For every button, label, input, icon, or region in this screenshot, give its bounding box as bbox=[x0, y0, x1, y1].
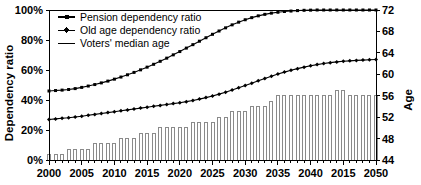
series-marker-diamond bbox=[99, 112, 103, 116]
x-tick-label: 2035 bbox=[266, 167, 290, 179]
series-marker-square bbox=[54, 89, 57, 92]
series-marker-square bbox=[257, 14, 260, 17]
bar-voters-median-age bbox=[67, 149, 70, 160]
bar-voters-median-age bbox=[244, 112, 247, 160]
series-marker-square bbox=[375, 9, 378, 12]
series-marker-diamond bbox=[250, 81, 254, 85]
bar-voters-median-age bbox=[355, 96, 358, 160]
series-marker-diamond bbox=[80, 114, 84, 118]
bar-voters-median-age bbox=[119, 139, 122, 160]
series-marker-square bbox=[67, 88, 70, 91]
series-marker-diamond bbox=[132, 107, 136, 111]
bar-voters-median-age bbox=[133, 139, 136, 160]
bar-voters-median-age bbox=[276, 96, 279, 160]
series-marker-diamond bbox=[237, 86, 241, 90]
series-marker-diamond bbox=[348, 59, 352, 63]
bar-voters-median-age bbox=[224, 117, 227, 160]
y2-tick-label: 60 bbox=[382, 68, 394, 80]
series-marker-square bbox=[93, 83, 96, 86]
y2-tick-label: 64 bbox=[382, 47, 395, 59]
series-marker-square bbox=[250, 16, 253, 19]
series-marker-diamond bbox=[354, 58, 358, 62]
series-marker-square bbox=[276, 11, 279, 14]
bar-voters-median-age bbox=[74, 149, 77, 160]
series-marker-diamond bbox=[276, 72, 280, 76]
series-marker-square bbox=[329, 9, 332, 12]
bar-voters-median-age bbox=[152, 133, 155, 160]
series-marker-square bbox=[303, 9, 306, 12]
bar-voters-median-age bbox=[250, 106, 253, 160]
series-marker-square bbox=[204, 36, 207, 39]
series-marker-square bbox=[296, 9, 299, 12]
series-marker-square bbox=[126, 73, 129, 76]
series-marker-square bbox=[270, 12, 273, 15]
bar-voters-median-age bbox=[172, 128, 175, 160]
bar-voters-median-age bbox=[204, 123, 207, 161]
series-marker-square bbox=[139, 68, 142, 71]
y-tick-label: 0% bbox=[27, 154, 43, 166]
series-marker-square bbox=[237, 21, 240, 24]
series-marker-diamond bbox=[171, 102, 175, 106]
bar-voters-median-age bbox=[270, 101, 273, 160]
x-tick-label: 2000 bbox=[37, 167, 61, 179]
series-marker-square bbox=[289, 10, 292, 13]
bar-voters-median-age bbox=[126, 139, 129, 160]
series-marker-diamond bbox=[112, 110, 116, 114]
series-marker-diamond bbox=[119, 109, 123, 113]
axis-titles-layer: Dependency ratio Age bbox=[3, 45, 414, 142]
series-marker-square bbox=[342, 9, 345, 12]
bar-voters-median-age bbox=[368, 96, 371, 160]
bar-voters-median-age bbox=[113, 144, 116, 160]
bar-voters-median-age bbox=[61, 155, 64, 160]
series-marker-square bbox=[224, 26, 227, 29]
bar-voters-median-age bbox=[106, 144, 109, 160]
legend-label: Old age dependency ratio bbox=[80, 24, 200, 36]
bar-voters-median-age bbox=[165, 128, 168, 160]
bar-voters-median-age bbox=[100, 144, 103, 160]
series-line-diamond bbox=[49, 60, 376, 120]
x-tick-label: 2050 bbox=[364, 167, 388, 179]
series-marker-square bbox=[146, 66, 149, 69]
x-tick-label: 2025 bbox=[200, 167, 224, 179]
series-marker-diamond bbox=[125, 108, 129, 112]
series-marker-square bbox=[335, 9, 338, 12]
series-marker-diamond bbox=[296, 67, 300, 71]
series-marker-diamond bbox=[282, 70, 286, 74]
bar-voters-median-age bbox=[335, 90, 338, 160]
series-marker-diamond bbox=[86, 113, 90, 117]
series-marker-diamond bbox=[197, 97, 201, 101]
y2-tick-label: 52 bbox=[382, 111, 394, 123]
series-marker-square bbox=[218, 30, 221, 33]
y-tick-label: 40% bbox=[21, 94, 43, 106]
series-marker-square bbox=[159, 60, 162, 63]
series-marker-square bbox=[113, 78, 116, 81]
x-tick-label: 2015 bbox=[331, 167, 355, 179]
series-marker-diamond bbox=[263, 76, 267, 80]
series-marker-square bbox=[316, 9, 319, 12]
bar-voters-median-age bbox=[329, 96, 332, 160]
series-marker-diamond bbox=[367, 58, 371, 62]
series-marker-diamond bbox=[139, 106, 143, 110]
series-marker-square bbox=[198, 40, 201, 43]
series-marker-diamond bbox=[145, 105, 149, 109]
bar-voters-median-age bbox=[283, 96, 286, 160]
bar-voters-median-age bbox=[289, 96, 292, 160]
series-marker-square bbox=[309, 9, 312, 12]
series-marker-square bbox=[283, 10, 286, 13]
y2-tick-label: 72 bbox=[382, 4, 394, 16]
bar-voters-median-age bbox=[348, 96, 351, 160]
bar-voters-median-age bbox=[237, 112, 240, 160]
bar-voters-median-age bbox=[80, 149, 83, 160]
y2-tick-label: 48 bbox=[382, 133, 394, 145]
series-marker-square bbox=[106, 80, 109, 83]
y2-tick-label: 56 bbox=[382, 90, 394, 102]
bar-voters-median-age bbox=[316, 96, 319, 160]
series-marker-diamond bbox=[302, 65, 306, 69]
series-marker-diamond bbox=[191, 98, 195, 102]
series-marker-diamond bbox=[217, 92, 221, 96]
series-marker-diamond bbox=[328, 61, 332, 65]
series-marker-square bbox=[80, 86, 83, 89]
bar-voters-median-age bbox=[296, 96, 299, 160]
series-marker-diamond bbox=[243, 84, 247, 88]
y2-tick-label: 44 bbox=[382, 154, 395, 166]
